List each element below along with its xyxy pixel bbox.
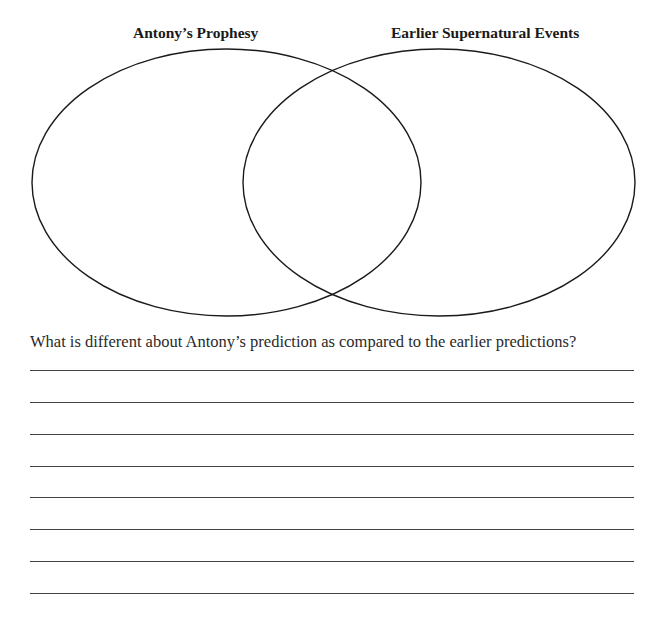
answer-line-7[interactable]: [30, 561, 634, 562]
answer-line-5[interactable]: [30, 497, 634, 498]
answer-line-8[interactable]: [30, 593, 634, 594]
answer-line-4[interactable]: [30, 466, 634, 467]
answer-line-2[interactable]: [30, 402, 634, 403]
venn-diagram: [0, 0, 661, 330]
answer-line-6[interactable]: [30, 529, 634, 530]
answer-line-1[interactable]: [30, 370, 634, 371]
answer-line-3[interactable]: [30, 434, 634, 435]
venn-left-ellipse[interactable]: [32, 49, 421, 316]
venn-right-ellipse[interactable]: [243, 49, 635, 316]
question-prompt: What is different about Antony’s predict…: [30, 332, 576, 352]
